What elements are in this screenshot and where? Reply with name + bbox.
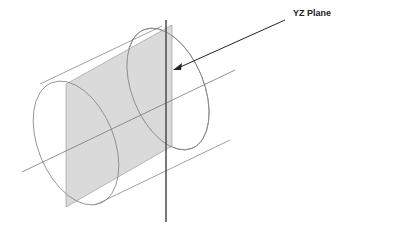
yz-plane-label: YZ Plane	[293, 8, 331, 18]
yz-plane	[66, 25, 172, 207]
cylinder-plane-diagram	[0, 0, 393, 232]
arrowhead-icon	[173, 63, 182, 70]
arrow	[173, 20, 285, 70]
